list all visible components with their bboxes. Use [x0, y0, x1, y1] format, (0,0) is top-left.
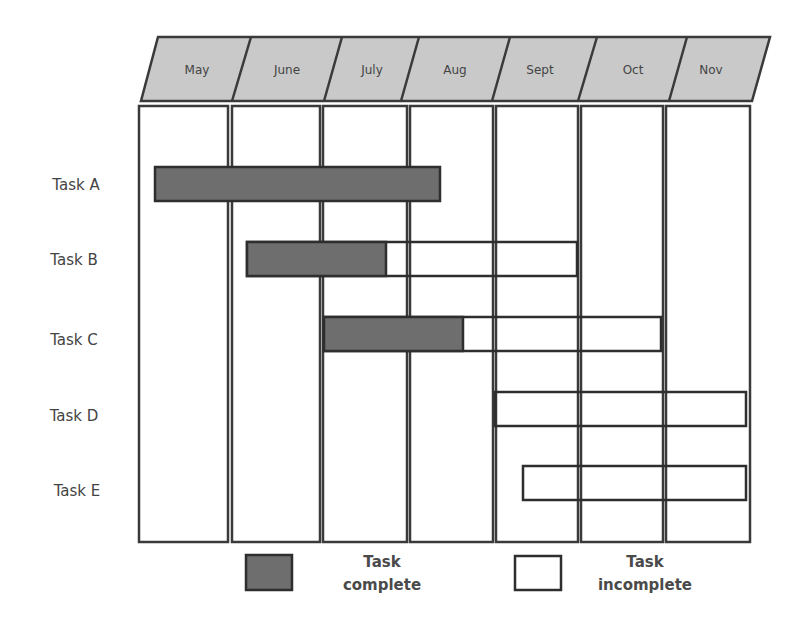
month-label-sept: Sept: [526, 63, 554, 77]
month-label-oct: Oct: [623, 63, 644, 77]
legend-item-incomplete: Task incomplete: [515, 553, 692, 594]
month-label-nov: Nov: [699, 63, 722, 77]
gantt-chart: May June July Aug Sept Oct Nov: [0, 0, 806, 628]
task-labels: Task A Task B Task C Task D Task E: [49, 176, 101, 500]
legend-swatch-incomplete: [515, 556, 561, 590]
month-label-june: June: [273, 63, 300, 77]
month-header: May June July Aug Sept Oct Nov: [141, 37, 770, 101]
column-sept: [496, 106, 578, 542]
legend-swatch-complete: [246, 555, 292, 590]
legend-label-complete-line2: complete: [343, 576, 421, 594]
task-label-a: Task A: [51, 176, 100, 194]
task-label-c: Task C: [49, 331, 98, 349]
month-label-aug: Aug: [443, 63, 466, 77]
legend-item-complete: Task complete: [246, 553, 421, 594]
column-oct: [581, 106, 663, 542]
legend-label-complete-line1: Task: [363, 553, 401, 571]
task-bar-c-complete: [324, 317, 463, 351]
task-label-d: Task D: [49, 407, 99, 425]
column-nov: [666, 106, 750, 542]
legend-label-incomplete-line2: incomplete: [598, 576, 692, 594]
task-label-b: Task B: [49, 251, 97, 269]
task-label-e: Task E: [53, 482, 101, 500]
month-label-july: July: [360, 63, 383, 77]
task-bar-b-complete: [247, 242, 386, 276]
task-bar-a: [155, 167, 440, 201]
month-label-may: May: [185, 63, 210, 77]
task-bar-a-complete: [155, 167, 440, 201]
legend: Task complete Task incomplete: [246, 553, 692, 594]
legend-label-incomplete-line1: Task: [626, 553, 664, 571]
